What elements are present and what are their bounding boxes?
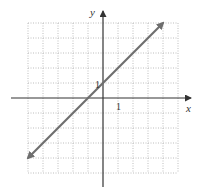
y-axis-label: y	[89, 6, 95, 18]
x-axis-label: x	[185, 102, 191, 114]
y-tick-label-1: 1	[95, 79, 100, 90]
line-y-equals-x-plus-1	[28, 23, 163, 158]
x-tick-label-1: 1	[116, 101, 121, 112]
coordinate-plane: y x 1 1	[0, 0, 200, 192]
